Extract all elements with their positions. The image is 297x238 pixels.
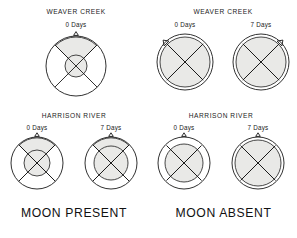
orientation-figure: WEAVER CREEK 0 Days [0, 0, 297, 238]
rose-svg [80, 132, 142, 194]
panel-weaver-absent-7days: 7 Days [228, 21, 294, 95]
panel-label-7days: 7 Days [101, 124, 122, 131]
condition-label-moon-present: MOON PRESENT [0, 206, 148, 220]
rose-diagram-harrison-absent-0days [153, 132, 215, 194]
mean-bearing-arrowhead [182, 133, 187, 137]
panel-group-weaver-moon-absent: WEAVER CREEK 0 Days 7 Days [152, 8, 294, 95]
mean-bearing-arrowhead [74, 32, 79, 36]
rose-svg [227, 132, 289, 194]
rose-svg [39, 29, 113, 103]
panel-harrison-absent-0days: 0 Days [153, 124, 215, 194]
panel-label-7days: 7 Days [251, 21, 272, 28]
panel-label-0days: 0 Days [27, 124, 48, 131]
rose-diagram-harrison-present-7days [80, 132, 142, 194]
panel-weaver-present-0days: 0 Days [39, 21, 113, 103]
rose-svg [152, 29, 218, 95]
group-title-weaver-absent: WEAVER CREEK [152, 8, 294, 15]
panel-harrison-present-0days: 0 Days [6, 124, 68, 194]
rose-svg [6, 132, 68, 194]
panel-label-0days: 0 Days [66, 21, 87, 28]
panel-harrison-absent-7days: 7 Days [227, 124, 289, 194]
rose-svg [153, 132, 215, 194]
group-title-weaver-present: WEAVER CREEK [6, 8, 146, 15]
rose-diagram-harrison-present-0days [6, 132, 68, 194]
panel-harrison-present-7days: 7 Days [80, 124, 142, 194]
rose-diagram-weaver-present-0days [39, 29, 113, 103]
mean-bearing-arrowhead [109, 133, 114, 137]
panel-label-0days: 0 Days [175, 21, 196, 28]
panel-group-harrison-moon-absent: HARRISON RIVER 0 Days 7 Days [150, 112, 292, 194]
mean-bearing-arrowhead [35, 133, 40, 137]
panel-weaver-absent-0days: 0 Days [152, 21, 218, 95]
rose-diagram-weaver-absent-0days [152, 29, 218, 95]
rose-diagram-harrison-absent-7days [227, 132, 289, 194]
mean-bearing-arrowhead [256, 133, 261, 137]
rose-svg [228, 29, 294, 95]
rose-diagram-weaver-absent-7days [228, 29, 294, 95]
panel-label-7days: 7 Days [248, 124, 269, 131]
panel-label-0days: 0 Days [174, 124, 195, 131]
panel-group-harrison-moon-present: HARRISON RIVER 0 Days 7 Days [4, 112, 144, 194]
panel-group-weaver-moon-present: WEAVER CREEK 0 Days [6, 8, 146, 103]
group-title-harrison-absent: HARRISON RIVER [150, 112, 292, 119]
group-title-harrison-present: HARRISON RIVER [4, 112, 144, 119]
condition-label-moon-absent: MOON ABSENT [150, 206, 297, 220]
